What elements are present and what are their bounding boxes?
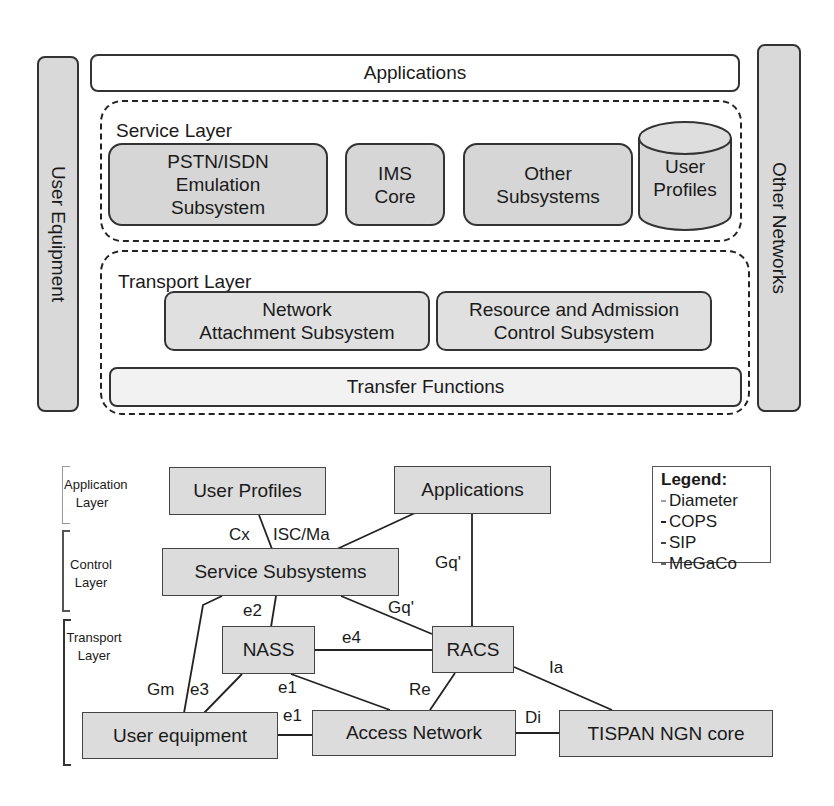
legend-dash-icon — [661, 563, 666, 565]
interface-re: Re — [409, 680, 431, 700]
interface-e4: e4 — [342, 628, 361, 648]
node-racs-label: RACS — [447, 639, 500, 661]
node-access-network: Access Network — [312, 710, 516, 756]
legend-dash-icon — [661, 542, 666, 544]
legend-label-diameter: Diameter — [669, 490, 738, 511]
interface-e1-ue: e1 — [283, 706, 302, 726]
node-nass: NASS — [222, 626, 315, 674]
legend-item-diameter: Diameter — [661, 490, 762, 511]
node-tispan-ngn-core-label: TISPAN NGN core — [588, 723, 745, 745]
legend-item-megaco: MeGaCo — [661, 553, 762, 574]
node-user-profiles-label: User Profiles — [193, 480, 302, 502]
node-nass-label: NASS — [243, 639, 295, 661]
node-access-network-label: Access Network — [346, 722, 482, 744]
legend-item-cops: COPS — [661, 511, 762, 532]
node-service-subsystems-label: Service Subsystems — [194, 561, 366, 583]
node-applications: Applications — [394, 466, 551, 514]
legend-title: Legend: — [661, 469, 762, 490]
legend-dash-icon — [661, 521, 666, 523]
interface-isc-ma: ISC/Ma — [273, 525, 330, 545]
legend-label-sip: SIP — [669, 532, 696, 553]
legend-label-cops: COPS — [669, 511, 717, 532]
interface-ia: Ia — [549, 658, 563, 678]
node-user-profiles: User Profiles — [169, 467, 326, 515]
interface-cx: Cx — [229, 525, 250, 545]
interface-di: Di — [525, 708, 541, 728]
interface-gm: Gm — [147, 680, 174, 700]
node-racs: RACS — [432, 626, 514, 673]
legend-label-megaco: MeGaCo — [669, 553, 737, 574]
node-applications-label: Applications — [421, 479, 523, 501]
interface-gq-ss-racs: Gq' — [388, 598, 414, 618]
interface-e2: e2 — [243, 601, 262, 621]
node-user-equipment: User equipment — [82, 712, 278, 759]
node-service-subsystems: Service Subsystems — [162, 548, 399, 596]
interface-e3: e3 — [190, 680, 209, 700]
legend: Legend: Diameter COPS SIP MeGaCo — [652, 466, 771, 563]
interface-gq-app-racs: Gq' — [435, 553, 461, 573]
legend-dash-icon — [661, 500, 666, 502]
legend-item-sip: SIP — [661, 532, 762, 553]
node-user-equipment-label: User equipment — [113, 725, 247, 747]
node-tispan-ngn-core: TISPAN NGN core — [559, 710, 773, 757]
interface-e1-nass: e1 — [278, 678, 297, 698]
